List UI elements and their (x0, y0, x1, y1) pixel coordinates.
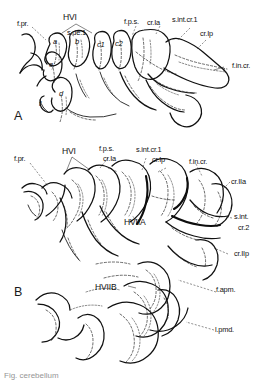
label-b-l-pmd: l.pmd. (215, 326, 234, 334)
label-b-f-in-cr: f.in.cr. (189, 158, 207, 166)
label-a-lobule-f: f (39, 100, 41, 108)
label-b-cr-2p: cr.IIp (234, 250, 249, 258)
panel-b-leaders (30, 157, 232, 330)
label-a-f-p-s: f.p.s. (124, 18, 139, 26)
label-b-hviia: HVIIA (124, 218, 145, 227)
label-a-lobule-c2: c2 (115, 40, 123, 48)
label-a-cr-1a: cr.Ia (147, 19, 160, 27)
label-a-f-in-cr: f.in.cr. (232, 62, 250, 70)
label-a-s-int-cr-1: s.int.cr.1 (172, 16, 198, 24)
label-a-lobule-c1: c1 (97, 41, 105, 49)
panel-a-drawing (20, 30, 229, 127)
label-b-hviib: HVIIB (95, 283, 116, 292)
label-b-cr-2: cr.2 (238, 224, 249, 232)
label-a-hvi: HVI (63, 13, 77, 22)
label-a-lobule-e: e (49, 61, 53, 69)
label-a-s-de-1: s.de.1 (67, 29, 86, 37)
label-b-hvi: HVI (62, 147, 76, 156)
panel-label-b: B (14, 286, 23, 299)
label-a-f-pr: f.pr. (17, 20, 28, 28)
label-b-f-apm: f.apm. (216, 286, 235, 294)
figure-caption: Fig. cerebellum (4, 371, 59, 380)
label-a-lobule-b: b (75, 38, 79, 46)
label-b-cr-1a: cr.Ia (103, 155, 116, 163)
figure-root: f.pr. HVI s.de.1 f.p.s. cr.Ia s.int.cr.1… (0, 0, 275, 382)
panel-label-a: A (14, 110, 23, 123)
label-a-cr-1p: cr.Ip (200, 30, 213, 38)
label-b-s-int: s.int. (234, 213, 248, 221)
label-b-cr-1p: cr.Ip (152, 156, 165, 164)
label-a-lobule-a: a (53, 38, 57, 46)
panel-b-drawing (22, 159, 232, 363)
label-a-lobule-d: d (59, 90, 63, 98)
label-b-f-pr: f.pr. (14, 155, 25, 163)
label-b-s-int-cr-1: s.int.cr.1 (136, 146, 162, 154)
label-b-f-p-s: f.p.s. (99, 145, 114, 153)
label-b-cr-2a: cr.IIa (231, 178, 246, 186)
